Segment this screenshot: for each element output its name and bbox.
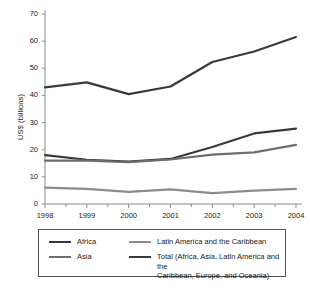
chart-container: US$ (billions) 010203040506070 199819992…: [0, 0, 310, 291]
axis-ticks: [42, 14, 296, 208]
legend-item-total[interactable]: Total (Africa, Asia, Latin America and t…: [129, 252, 281, 281]
axis-lines: [45, 10, 302, 204]
legend-label-total: Total (Africa, Asia, Latin America and t…: [157, 252, 281, 281]
legend-label-latin-america-caribbean: Latin America and the Caribbean: [157, 237, 266, 247]
series-lines: [45, 37, 296, 193]
legend-item-africa[interactable]: Africa: [49, 237, 96, 247]
chart-legend: Africa Asia Latin America and the Caribb…: [38, 229, 286, 277]
legend-label-asia: Asia: [77, 252, 92, 262]
legend-item-asia[interactable]: Asia: [49, 252, 92, 262]
legend-item-latin-america-caribbean[interactable]: Latin America and the Caribbean: [129, 237, 281, 247]
legend-swatch-asia: [49, 256, 71, 258]
legend-swatch-total: [129, 256, 151, 258]
legend-swatch-africa: [49, 241, 71, 243]
legend-label-africa: Africa: [77, 237, 96, 247]
legend-swatch-latin-america-caribbean: [129, 241, 151, 243]
